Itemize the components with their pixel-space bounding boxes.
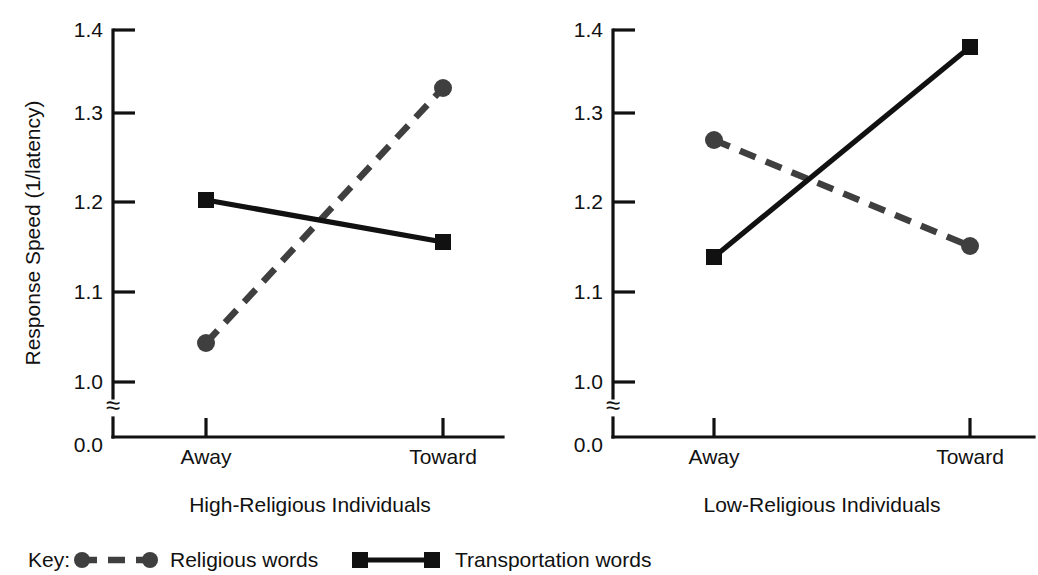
left-datapoint-religious-toward	[434, 79, 452, 97]
right-datapoint-religious-toward	[961, 237, 979, 255]
right-cat-label-away: Away	[689, 445, 740, 468]
y-axis-title: Response Speed (1/latency)	[21, 101, 44, 366]
right-ytick-label-1-1: 1.1	[574, 280, 603, 303]
left-ytick-label-1-1: 1.1	[74, 280, 103, 303]
legend-key-label: Key:	[28, 548, 70, 571]
left-ytick-label-1-0: 1.0	[74, 370, 103, 393]
left-ytick-label-1-3: 1.3	[74, 101, 103, 124]
interaction-line-chart: 1.4 1.3 1.2 1.1 1.0 0.0 ≈ Away Toward Hi…	[0, 0, 1038, 575]
panel-high-religious: 1.4 1.3 1.2 1.1 1.0 0.0 ≈ Away Toward Hi…	[74, 18, 503, 516]
right-datapoint-transportation-away	[706, 249, 722, 265]
left-ytick-label-1-2: 1.2	[74, 190, 103, 213]
left-series-religious-words-line	[206, 88, 443, 343]
left-ytick-label-1-4: 1.4	[74, 18, 104, 41]
left-series-transportation-words-line	[206, 200, 443, 242]
right-ytick-label-1-4: 1.4	[574, 18, 604, 41]
left-datapoint-transportation-away	[198, 192, 214, 208]
left-axis-break-icon: ≈	[106, 390, 120, 420]
legend-square-marker-right-icon	[424, 552, 440, 568]
right-ytick-label-1-0: 1.0	[574, 370, 603, 393]
left-cat-label-toward: Toward	[409, 445, 477, 468]
right-axis-break-icon: ≈	[606, 390, 620, 420]
left-panel-caption: High-Religious Individuals	[189, 493, 431, 516]
right-panel-caption: Low-Religious Individuals	[704, 493, 941, 516]
right-datapoint-religious-away	[705, 131, 723, 149]
right-cat-label-toward: Toward	[936, 445, 1004, 468]
chart-legend: Key: Religious words Transportation word…	[28, 548, 651, 571]
legend-square-marker-left-icon	[352, 552, 368, 568]
left-datapoint-transportation-toward	[435, 234, 451, 250]
right-datapoint-transportation-toward	[962, 39, 978, 55]
right-series-religious-words-line	[714, 140, 970, 246]
left-datapoint-religious-away	[197, 334, 215, 352]
right-ytick-label-1-3: 1.3	[574, 101, 603, 124]
left-ytick-label-0-0: 0.0	[74, 433, 103, 456]
legend-circle-marker-left-icon	[74, 552, 90, 568]
panel-low-religious: 1.4 1.3 1.2 1.1 1.0 0.0 ≈ Away Toward Lo…	[574, 18, 1034, 516]
legend-item-transportation-words: Transportation words	[352, 548, 651, 571]
figure-container: 1.4 1.3 1.2 1.1 1.0 0.0 ≈ Away Toward Hi…	[0, 0, 1038, 575]
legend-circle-marker-right-icon	[142, 552, 158, 568]
right-ytick-label-0-0: 0.0	[574, 433, 603, 456]
left-cat-label-away: Away	[181, 445, 232, 468]
right-ytick-label-1-2: 1.2	[574, 190, 603, 213]
legend-label-religious-words: Religious words	[170, 548, 318, 571]
legend-label-transportation-words: Transportation words	[455, 548, 651, 571]
right-series-transportation-words-line	[714, 47, 970, 257]
legend-item-religious-words: Religious words	[74, 548, 318, 571]
